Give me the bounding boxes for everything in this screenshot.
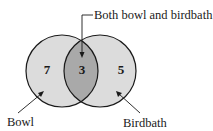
venn-diagram: 7 3 5 Both bowl and birdbath Bowl Birdba… xyxy=(0,0,213,131)
count-birdbath-only: 5 xyxy=(118,62,125,77)
count-both: 3 xyxy=(79,62,86,77)
count-bowl-only: 7 xyxy=(44,62,51,77)
label-bowl: Bowl xyxy=(7,115,35,129)
label-both: Both bowl and birdbath xyxy=(94,8,213,22)
label-birdbath: Birdbath xyxy=(123,116,167,130)
bowl-arrow-icon xyxy=(18,91,44,113)
